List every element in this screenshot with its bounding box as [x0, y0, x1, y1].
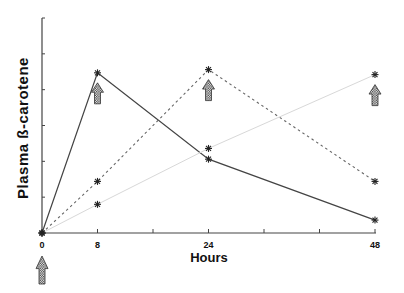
asterisk-marker [205, 156, 212, 163]
asterisk-marker [39, 230, 46, 237]
up-arrow-icon [369, 85, 381, 106]
x-tick-label: 48 [370, 240, 380, 250]
up-arrow-icon [203, 80, 215, 101]
asterisk-marker [205, 145, 212, 152]
asterisk-marker [372, 71, 379, 78]
asterisk-marker [94, 69, 101, 76]
asterisk-marker [372, 217, 379, 224]
asterisk-marker [372, 178, 379, 185]
up-arrow-icon [36, 256, 48, 284]
x-tick-label: 0 [39, 240, 44, 250]
axes: 082448 [39, 18, 380, 250]
asterisk-marker [94, 178, 101, 185]
asterisk-marker [205, 66, 212, 73]
x-tick-label: 8 [95, 240, 100, 250]
y-axis-title: Plasma ß-carotene [14, 57, 31, 199]
x-axis-title: Hours [190, 250, 228, 265]
asterisk-marker [94, 201, 101, 208]
x-tick-label: 24 [203, 240, 213, 250]
